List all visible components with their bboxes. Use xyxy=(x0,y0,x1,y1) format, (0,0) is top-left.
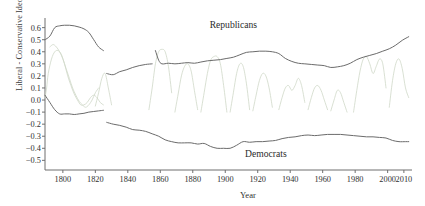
y-tick-label: −0.1 xyxy=(26,108,41,117)
chart-figure: Liberal - Conservative Ideology 0.60.50.… xyxy=(0,0,425,206)
x-tick-label: 1980 xyxy=(347,175,364,184)
x-tick-label: 1800 xyxy=(55,175,72,184)
minor-trace-line xyxy=(230,63,249,112)
party-line-democrats xyxy=(107,122,409,148)
minor-trace-line xyxy=(175,64,198,113)
annotation-republicans: Republicans xyxy=(210,19,258,30)
series-annotation-group: RepublicansDemocrats xyxy=(210,19,287,159)
x-tick-label: 1840 xyxy=(120,175,137,184)
y-tick-label: 0.3 xyxy=(31,60,41,69)
minor-trace-group xyxy=(45,45,409,113)
minor-trace-line xyxy=(45,50,103,105)
y-tick-label: −0.5 xyxy=(26,156,41,165)
y-tick-label: −0.3 xyxy=(26,132,41,141)
y-tick-label: 0.6 xyxy=(31,24,41,33)
minor-trace-line xyxy=(50,45,99,108)
minor-trace-line xyxy=(201,56,227,112)
party-line-republicans xyxy=(107,64,152,75)
x-tick-label: 1880 xyxy=(184,175,201,184)
x-tick-label: 2000 xyxy=(379,175,396,184)
x-tick-label: 1820 xyxy=(87,175,104,184)
minor-trace-line xyxy=(279,78,305,109)
annotation-democrats: Democrats xyxy=(245,148,287,159)
y-tick-label: −0.2 xyxy=(26,120,41,129)
y-tick-label: 0.5 xyxy=(31,36,41,45)
x-tick-label: 2010 xyxy=(396,175,413,184)
minor-trace-line xyxy=(149,49,172,109)
x-axis-title: Year xyxy=(240,190,256,200)
y-tick-label: 0.1 xyxy=(31,84,41,93)
party-line-republicans xyxy=(45,25,103,50)
y-tick-label: 0.4 xyxy=(31,48,42,57)
party-line-democrats xyxy=(45,95,103,114)
x-tick-label: 1860 xyxy=(152,175,169,184)
minor-trace-line xyxy=(354,56,386,112)
x-tick-label: 1920 xyxy=(249,175,266,184)
x-tick-label: 1940 xyxy=(282,175,299,184)
x-tick-label: 1960 xyxy=(314,175,331,184)
chart-canvas: 0.60.50.40.30.20.10.0−0.1−0.2−0.3−0.4−0.… xyxy=(0,0,425,206)
minor-trace-line xyxy=(253,73,272,111)
y-tick-label: −0.4 xyxy=(26,144,42,153)
y-tick-label: 0.0 xyxy=(31,96,41,105)
x-tick-label: 1900 xyxy=(217,175,234,184)
y-tick-label-group: 0.60.50.40.30.20.10.0−0.1−0.2−0.3−0.4−0.… xyxy=(26,24,42,166)
x-tick-label-group: 1800182018401860188019001920194019601980… xyxy=(55,175,413,184)
minor-trace-line xyxy=(308,85,327,109)
minor-trace-line xyxy=(389,59,408,107)
party-line-republicans xyxy=(155,37,408,68)
minor-trace-line xyxy=(331,90,347,112)
y-tick-label: 0.2 xyxy=(31,72,41,81)
